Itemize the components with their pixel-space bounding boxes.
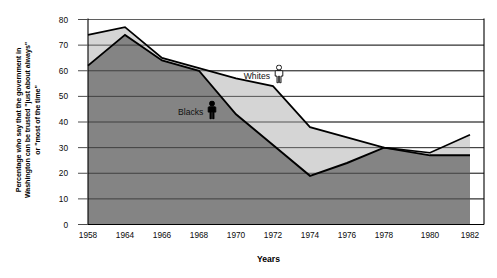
person-filled-icon [207,100,217,123]
x-tick-label-1958: 1958 [79,230,97,240]
legend-label-blacks: Blacks [178,107,203,117]
x-axis-title: Years [0,254,497,264]
x-tick-label-1968: 1968 [190,230,208,240]
legend-label-whites: Whites [244,71,270,81]
y-axis-tick-marks [78,20,88,225]
x-tick-label-1976: 1976 [338,230,356,240]
x-tick-label-1980: 1980 [421,230,439,240]
x-tick-label-1970: 1970 [227,230,245,240]
series-areas [88,27,484,224]
x-tick-label-1978: 1978 [375,230,393,240]
trust-in-government-area-chart: Percentage who say that the government i… [0,0,497,278]
x-tick-label-1974: 1974 [301,230,319,240]
person-outline-icon [274,64,284,87]
x-tick-label-1966: 1966 [153,230,171,240]
x-tick-label-1964: 1964 [116,230,134,240]
x-tick-label-1982: 1982 [461,230,479,240]
x-tick-label-1972: 1972 [264,230,282,240]
x-axis-tick-labels: 1958196419661968197019721974197619781980… [0,230,497,244]
